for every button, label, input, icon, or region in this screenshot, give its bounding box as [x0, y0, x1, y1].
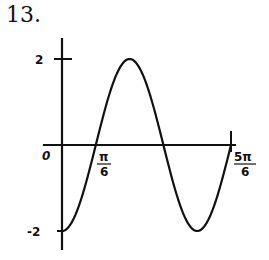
y-label-neg2: -2 [27, 225, 40, 239]
pi6-num: π [99, 150, 109, 164]
fivepi6-den: 6 [241, 165, 249, 179]
y-label-2: 2 [35, 53, 43, 67]
sine-graph: 2 -2 0 π 6 5π 6 [0, 0, 269, 260]
origin-label: 0 [42, 149, 50, 163]
fivepi6-num: 5π [234, 150, 252, 164]
pi6-den: 6 [100, 165, 108, 179]
